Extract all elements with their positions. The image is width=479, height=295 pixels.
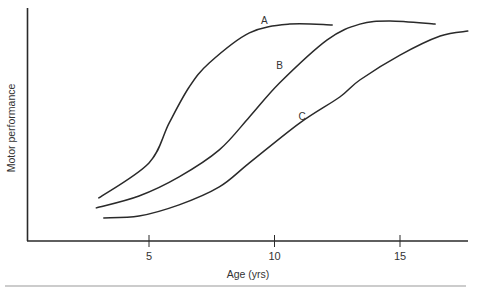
motor-performance-chart: 51015 ABC Age (yrs) Motor performance [0,0,479,295]
x-tick-label: 10 [268,250,280,262]
x-tick-label: 15 [394,250,406,262]
series-label-c: C [298,111,305,122]
x-axis-label: Age (yrs) [227,268,270,280]
y-axis-label: Motor performance [5,83,17,172]
curves [96,21,468,218]
curve-a [99,24,332,198]
series-label-a: A [261,15,268,26]
series-label-b: B [276,60,283,71]
x-ticks: 51015 [146,235,406,262]
curve-c [104,31,468,218]
series-labels: ABC [261,15,306,122]
x-tick-label: 5 [146,250,152,262]
curve-b [96,21,435,208]
